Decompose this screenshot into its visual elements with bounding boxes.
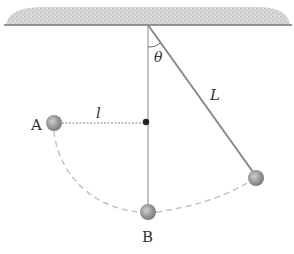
ceiling bbox=[4, 7, 292, 25]
swing-path-right bbox=[156, 182, 249, 212]
label-point-a: A bbox=[30, 116, 42, 134]
label-point-b: B bbox=[142, 228, 153, 246]
bob-at-b bbox=[140, 204, 156, 220]
label-long-length: L bbox=[209, 86, 220, 104]
pendulum-diagram: A B l L θ bbox=[0, 0, 294, 254]
label-angle: θ bbox=[154, 49, 163, 65]
angle-arc bbox=[148, 43, 160, 47]
bob-at-a bbox=[46, 115, 62, 131]
bob-start bbox=[248, 170, 264, 186]
ceiling-hatch bbox=[6, 7, 290, 25]
label-short-length: l bbox=[96, 104, 101, 122]
swing-path-left bbox=[54, 131, 141, 212]
pendulum-string bbox=[148, 25, 253, 172]
peg bbox=[143, 119, 149, 125]
